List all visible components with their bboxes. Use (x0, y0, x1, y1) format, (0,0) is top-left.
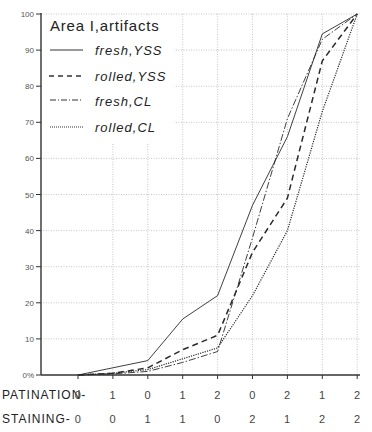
y-axis-ticks: 0%102030405060708090100 (21, 10, 41, 380)
x-category-value: 0 (249, 389, 256, 401)
x-category-value: 0 (110, 413, 117, 425)
legend: Area I,artifacts fresh,YSS rolled,YSS fr… (42, 15, 174, 143)
x-category-value: 0 (214, 413, 221, 425)
y-tick-label: 100 (21, 10, 35, 19)
x-category-value: 1 (144, 413, 151, 425)
legend-item-fresh-cl: fresh,CL (95, 94, 152, 109)
x-category-value: 2 (214, 389, 221, 401)
x-category-value: 1 (179, 389, 186, 401)
x-category-value: 1 (284, 413, 291, 425)
x-category-value: 0 (144, 389, 151, 401)
y-tick-label: 0% (22, 371, 34, 380)
y-tick-label: 20 (25, 299, 34, 308)
x-category-value: 0 (75, 413, 82, 425)
x-category-value: 1 (319, 389, 326, 401)
x-row-label: PATINATION- (2, 388, 86, 402)
cumulative-line-chart: 0%102030405060708090100 Area I,artifacts… (0, 0, 372, 432)
x-category-value: 2 (319, 413, 326, 425)
x-category-value: 2 (284, 389, 291, 401)
y-tick-label: 60 (25, 154, 34, 163)
legend-item-rolled-cl: rolled,CL (95, 120, 156, 135)
x-row-label: STAINING- (2, 412, 71, 426)
y-tick-label: 40 (25, 227, 34, 236)
y-tick-label: 30 (25, 263, 34, 272)
y-tick-label: 70 (25, 118, 34, 127)
x-axis-category-rows: PATINATION-010120212STAINING-001102122 (2, 388, 361, 426)
x-category-value: 1 (110, 389, 117, 401)
y-tick-label: 80 (25, 82, 34, 91)
x-category-value: 2 (249, 413, 256, 425)
y-tick-label: 90 (25, 46, 34, 55)
legend-item-rolled-yss: rolled,YSS (95, 69, 166, 84)
y-tick-label: 50 (25, 191, 34, 200)
x-category-value: 0 (75, 389, 82, 401)
x-category-value: 1 (179, 413, 186, 425)
x-category-value: 2 (354, 389, 361, 401)
y-tick-label: 10 (25, 335, 34, 344)
legend-title: Area I,artifacts (50, 17, 160, 34)
legend-item-fresh-yss: fresh,YSS (95, 43, 163, 58)
x-category-value: 2 (354, 413, 361, 425)
